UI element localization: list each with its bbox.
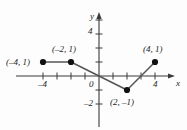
data-point-2-neg1	[124, 87, 130, 93]
data-point-neg2-1	[68, 59, 74, 65]
origin-label: 0	[89, 80, 94, 89]
point-label-neg4-1: (–4, 1)	[6, 58, 30, 67]
x-tick-label-neg4: –4	[38, 80, 47, 89]
point-label-2-neg1: (2, –1)	[110, 98, 134, 107]
graph-figure: y x –4 4 0 4 –2 (–4, 1) (–2, 1) (2, –1) …	[0, 0, 187, 130]
point-label-neg2-1: (–2, 1)	[52, 45, 76, 54]
y-tick-label-neg2: –2	[84, 99, 93, 108]
y-axis-label: y	[90, 12, 94, 21]
y-axis-arrow-icon	[96, 12, 101, 19]
data-point-neg4-1	[40, 59, 46, 65]
y-tick-label-4: 4	[88, 27, 93, 36]
x-tick-label-4: 4	[153, 80, 158, 89]
x-axis-label: x	[176, 79, 180, 88]
data-point-4-1	[152, 59, 158, 65]
point-label-4-1: (4, 1)	[143, 45, 163, 54]
x-axis-arrow-icon	[168, 73, 175, 78]
